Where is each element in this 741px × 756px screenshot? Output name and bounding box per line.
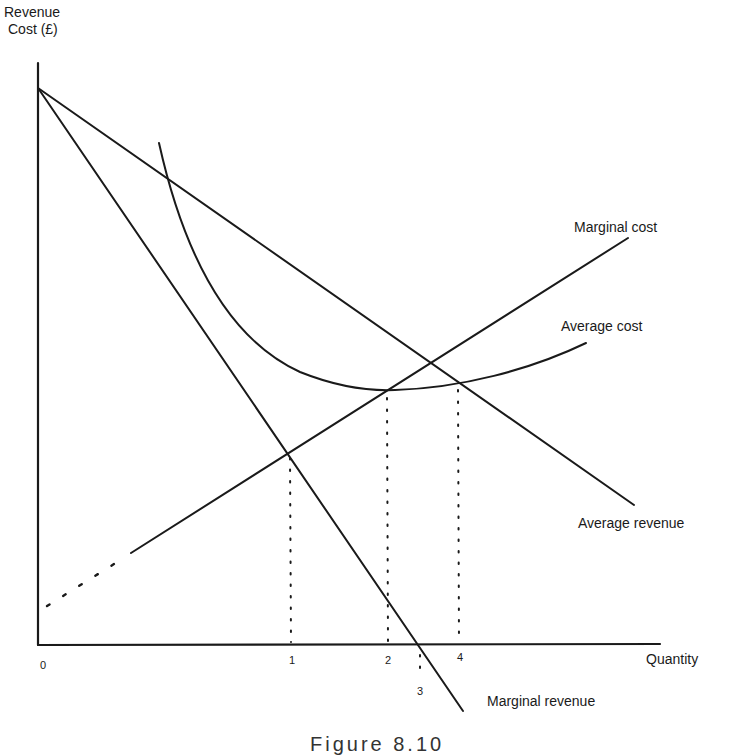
label-average-cost: Average cost <box>561 318 642 334</box>
label-average-revenue: Average revenue <box>578 515 684 531</box>
label-marginal-cost: Marginal cost <box>574 219 657 235</box>
y-axis-label-revenue: Revenue <box>4 4 60 20</box>
marginal-cost-line <box>131 238 628 553</box>
dotted-guides <box>290 390 459 672</box>
marginal-revenue-line <box>38 88 463 711</box>
label-marginal-revenue: Marginal revenue <box>487 693 595 709</box>
average-cost-curve <box>159 143 586 390</box>
average-revenue-line <box>38 88 634 505</box>
tick-3: 3 <box>417 685 423 697</box>
y-axis-label-cost: Cost (£) <box>8 21 58 37</box>
marginal-cost-dotted <box>47 559 122 606</box>
guide-2 <box>387 398 388 642</box>
x-axis <box>38 644 660 645</box>
tick-4: 4 <box>457 651 463 663</box>
x-axis-label-quantity: Quantity <box>646 651 698 667</box>
figure-caption: Figure 8.10 <box>310 733 444 756</box>
tick-2: 2 <box>385 654 391 666</box>
origin-label: 0 <box>40 659 46 671</box>
guide-1 <box>290 458 291 642</box>
tick-1: 1 <box>289 654 295 666</box>
guide-4 <box>458 390 459 642</box>
